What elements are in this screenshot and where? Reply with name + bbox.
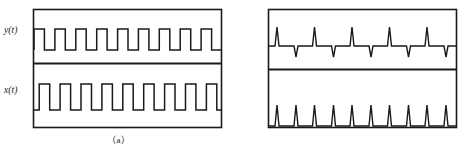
- panel-b: TF TG 1 kHz （b）: [234, 0, 468, 157]
- panel-b-scope: [234, 0, 468, 157]
- waveform-y-of-t: [34, 29, 221, 50]
- panel-a-frame: [34, 10, 222, 128]
- figure-root: y(t) x(t) （a） TF TG: [0, 0, 468, 157]
- waveform-x-of-t: [34, 84, 221, 110]
- caption-a: （a）: [107, 133, 130, 146]
- waveform-t-g: [269, 105, 456, 126]
- waveform-t-f: [269, 27, 456, 57]
- panel-a: y(t) x(t) （a）: [0, 0, 234, 157]
